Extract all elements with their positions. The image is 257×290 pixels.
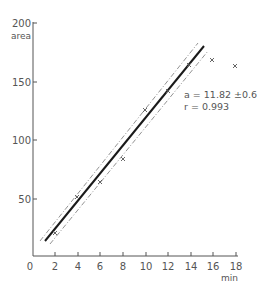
slope-annotation: a = 11.82 ±0.62 xyxy=(184,89,257,100)
data-points xyxy=(53,58,237,235)
y-tick-label-50: 50 xyxy=(18,194,31,205)
upper-bound-line xyxy=(40,43,198,241)
point-marker xyxy=(98,180,102,184)
axes xyxy=(33,22,238,256)
x-tick-label-6: 6 xyxy=(97,261,103,272)
regression-line xyxy=(45,46,204,241)
x-tick-label-0: 0 xyxy=(27,261,33,272)
x-axis-title: min xyxy=(221,273,238,283)
x-tick-label-2: 2 xyxy=(52,261,58,272)
y-tick-label-100: 100 xyxy=(12,135,31,146)
y-tick-label-200: 200 xyxy=(12,18,31,29)
x-tick-label-14: 14 xyxy=(185,261,198,272)
point-marker xyxy=(143,108,147,112)
point-marker xyxy=(53,231,57,235)
y-axis-title: area xyxy=(11,31,31,41)
x-tick-label-12: 12 xyxy=(162,261,175,272)
x-tick-label-18: 18 xyxy=(230,261,243,272)
point-marker xyxy=(210,58,214,62)
point-marker xyxy=(233,64,237,68)
x-tick-label-16: 16 xyxy=(207,261,220,272)
x-tick-label-4: 4 xyxy=(75,261,81,272)
x-tick-label-10: 10 xyxy=(140,261,153,272)
scatter-chart: 200 area 150 100 50 0 2 4 6 8 10 12 14 1… xyxy=(0,0,257,290)
point-marker xyxy=(75,195,79,199)
lower-bound-line xyxy=(50,51,208,244)
y-tick-label-150: 150 xyxy=(12,77,31,88)
x-tick-label-8: 8 xyxy=(120,261,126,272)
correlation-annotation: r = 0.993 xyxy=(184,101,229,112)
point-marker xyxy=(121,157,125,161)
